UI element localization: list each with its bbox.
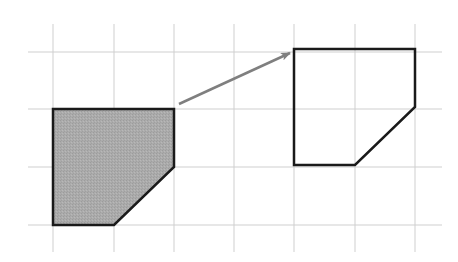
original-shape — [53, 109, 174, 225]
translation-diagram — [0, 0, 458, 262]
